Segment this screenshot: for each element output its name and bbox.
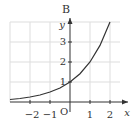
chart: B y x O 3 2 1 −2 −1 1 2: [0, 0, 135, 126]
y-tick-1: 1: [60, 76, 66, 87]
x-tick-neg2: −2: [25, 109, 40, 120]
x-tick-1: 1: [87, 109, 93, 120]
x-axis-label: x: [124, 107, 130, 118]
x-tick-2: 2: [107, 109, 113, 120]
y-tick-2: 2: [60, 56, 66, 67]
x-axis-arrow-icon: [122, 100, 128, 105]
origin-label: O: [60, 106, 68, 117]
y-axis-label: y: [58, 19, 65, 30]
y-tick-3: 3: [60, 36, 66, 47]
panel-label: B: [62, 3, 70, 16]
y-axis-arrow-icon: [68, 18, 73, 24]
x-tick-neg1: −1: [43, 109, 58, 120]
